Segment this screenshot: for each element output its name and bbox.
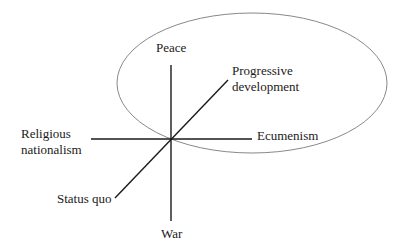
- label-progressive: Progressive: [232, 63, 293, 78]
- diagram-canvas: Peace Progressive development Religious …: [0, 0, 405, 248]
- label-peace: Peace: [156, 40, 186, 55]
- diagram-graphics: [0, 0, 405, 248]
- label-religious: Religious: [21, 126, 71, 141]
- label-development: development: [232, 79, 299, 94]
- label-nationalism: nationalism: [21, 142, 82, 157]
- label-ecumenism: Ecumenism: [257, 128, 318, 143]
- label-war: War: [161, 226, 182, 241]
- label-status-quo: Status quo: [57, 191, 112, 206]
